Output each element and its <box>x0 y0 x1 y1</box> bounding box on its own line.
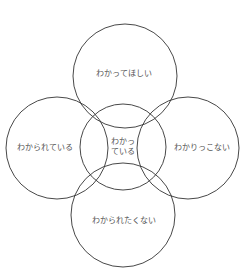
label-center-line1: わかっ <box>111 137 135 147</box>
circle-bottom <box>71 163 175 267</box>
label-center: わかっ ている <box>111 137 135 157</box>
label-center-line2: ている <box>111 147 135 157</box>
label-top: わかってほしい <box>96 69 152 79</box>
label-right: わかりっこない <box>174 143 230 153</box>
label-left: わかられている <box>17 143 73 153</box>
venn-diagram <box>0 0 243 271</box>
label-bottom: わかられたくない <box>92 216 156 226</box>
